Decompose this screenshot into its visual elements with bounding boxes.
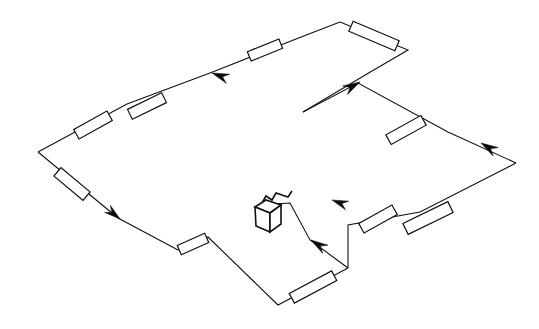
flow-arrow-center-feed <box>330 196 348 210</box>
conveyor-line-left-descent <box>38 152 178 250</box>
flow-arrow-top-run <box>210 68 229 83</box>
flow-arrow-mid-ascent <box>343 78 363 95</box>
conveyor-segment-layer <box>54 21 453 303</box>
transfer-unit <box>255 191 292 232</box>
conveyor-segment-left-down <box>54 168 90 201</box>
conveyor-line-bottom <box>178 237 348 305</box>
conveyor-segment-bottom-right <box>289 271 337 303</box>
conveyor-path-group <box>38 22 516 305</box>
conveyor-segment-bottom-left <box>177 233 208 254</box>
conveyor-line-upper-right <box>303 22 408 112</box>
conveyor-segment-upper-left <box>74 111 113 139</box>
conveyor-segment-center-right <box>359 205 398 233</box>
conveyor-segment-upper-right <box>247 39 282 61</box>
conveyor-diagram-canvas <box>0 0 539 329</box>
conveyor-diagram <box>0 0 539 329</box>
flow-arrow-left-descent <box>105 205 123 222</box>
conveyor-segment-top-corner <box>349 21 399 51</box>
conveyor-segment-right-lower <box>403 202 453 235</box>
conveyor-segment-right-upper <box>386 115 426 144</box>
